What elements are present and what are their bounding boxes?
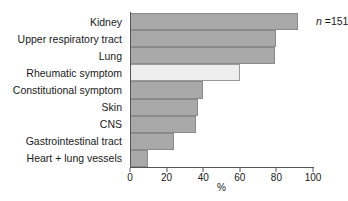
sample-size-value: =151 (322, 15, 348, 27)
bar-upper-respiratory-tract (130, 30, 276, 47)
table-row (130, 99, 313, 116)
bar-lung (130, 47, 275, 64)
category-label-lung: Lung (0, 47, 126, 64)
table-row (130, 30, 313, 47)
table-row (130, 47, 313, 64)
bar-cns (130, 116, 196, 133)
category-label-constitutional-symptom: Constitutional symptom (0, 81, 126, 98)
bar-constitutional-symptom (130, 81, 203, 98)
bar-gastrointestinal-tract (130, 133, 174, 150)
x-axis-title: % (130, 182, 313, 194)
y-axis-line (130, 12, 131, 168)
bar-rows (130, 13, 313, 167)
category-label-skin: Skin (0, 99, 126, 116)
category-label-heart-lung-vessels: Heart + lung vessels (0, 150, 126, 167)
table-row (130, 116, 313, 133)
table-row (130, 13, 313, 30)
category-label-gastrointestinal-tract: Gastrointestinal tract (0, 133, 126, 150)
table-row (130, 150, 313, 167)
category-label-kidney: Kidney (0, 13, 126, 30)
category-label-rheumatic-symptom: Rheumatic symptom (0, 64, 126, 81)
sample-size-annotation: n =151 (316, 15, 348, 27)
category-label-upper-respiratory-tract: Upper respiratory tract (0, 30, 126, 47)
bar-kidney (130, 13, 298, 30)
category-axis-labels: Kidney Upper respiratory tract Lung Rheu… (0, 13, 126, 167)
category-label-cns: CNS (0, 116, 126, 133)
plot-area (130, 13, 313, 167)
bar-heart-lung-vessels (130, 150, 148, 167)
bar-rheumatic-symptom (130, 64, 240, 81)
table-row (130, 133, 313, 150)
table-row (130, 81, 313, 98)
table-row (130, 64, 313, 81)
bar-skin (130, 99, 198, 116)
